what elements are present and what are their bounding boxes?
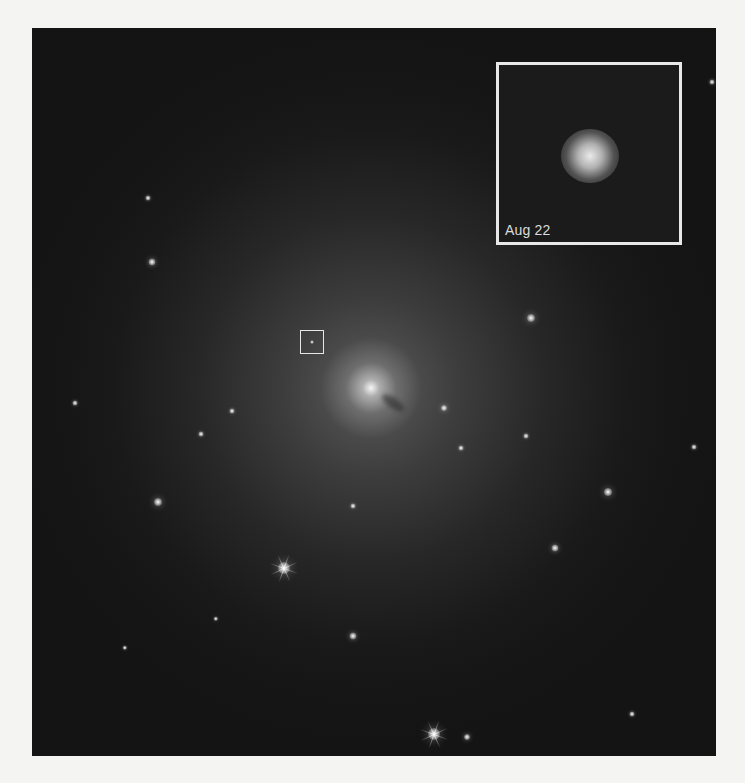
transient-blob — [561, 129, 619, 183]
star — [710, 80, 715, 85]
inset-date-label: Aug 22 — [505, 222, 551, 238]
star — [552, 545, 559, 552]
galaxy-core — [311, 328, 431, 448]
galaxy-photo: Aug 22 — [32, 28, 716, 756]
zoom-inset: Aug 22 — [496, 62, 682, 245]
star — [149, 259, 156, 266]
star — [123, 646, 127, 650]
star — [350, 633, 357, 640]
star — [527, 314, 535, 322]
dust-lane — [379, 391, 406, 414]
transient-source — [311, 341, 314, 344]
star — [154, 498, 162, 506]
star — [464, 734, 470, 740]
star — [230, 409, 235, 414]
star — [199, 432, 204, 437]
star — [441, 405, 447, 411]
transient-marker-box — [300, 330, 324, 354]
star — [630, 712, 635, 717]
star — [692, 445, 697, 450]
star — [146, 196, 151, 201]
star — [214, 617, 218, 621]
star — [459, 446, 464, 451]
star — [524, 434, 529, 439]
star — [73, 401, 78, 406]
star — [604, 488, 612, 496]
star — [351, 504, 356, 509]
